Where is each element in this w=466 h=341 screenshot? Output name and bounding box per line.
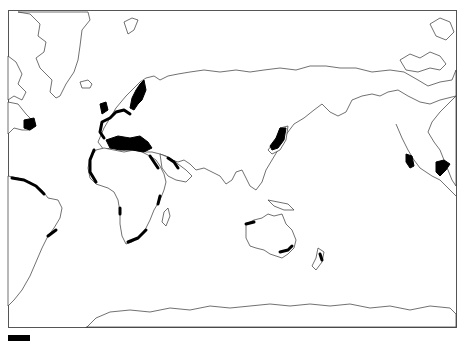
antarctica bbox=[86, 304, 456, 328]
canada-arctic-west bbox=[8, 56, 26, 100]
canada-arctic-islands bbox=[400, 52, 446, 72]
highlight-west-australia bbox=[246, 222, 254, 224]
highlight-british-isles bbox=[100, 102, 108, 114]
highlight-gulf-of-mexico bbox=[436, 160, 450, 176]
canada-arctic-islands-2 bbox=[430, 18, 454, 40]
greenland bbox=[18, 12, 90, 98]
legend-swatch bbox=[8, 335, 30, 341]
svalbard bbox=[124, 18, 138, 34]
madagascar bbox=[162, 208, 170, 226]
highlight-central-america bbox=[24, 118, 36, 130]
south-america bbox=[8, 176, 62, 306]
iceland bbox=[80, 80, 92, 88]
new-guinea bbox=[268, 200, 294, 210]
highlight-new-zealand bbox=[320, 254, 322, 260]
highlight-east-africa bbox=[158, 196, 160, 204]
